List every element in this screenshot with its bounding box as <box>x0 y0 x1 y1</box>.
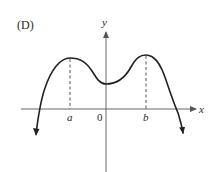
curve-left-arrowhead <box>33 128 40 136</box>
function-graph: (D) y x a 0 b <box>0 0 212 172</box>
tick-label-b: b <box>143 111 149 123</box>
tick-label-a: a <box>67 111 73 123</box>
y-axis-label: y <box>101 16 107 28</box>
function-curve <box>36 55 183 134</box>
x-axis-label: x <box>198 103 204 115</box>
figure-label: (D) <box>17 18 34 32</box>
tick-label-origin: 0 <box>97 111 103 123</box>
